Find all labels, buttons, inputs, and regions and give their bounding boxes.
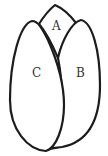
label-c: C	[32, 67, 41, 79]
label-b: B	[76, 67, 85, 79]
petal-diagram: A B C	[0, 0, 108, 156]
label-a: A	[52, 20, 61, 32]
